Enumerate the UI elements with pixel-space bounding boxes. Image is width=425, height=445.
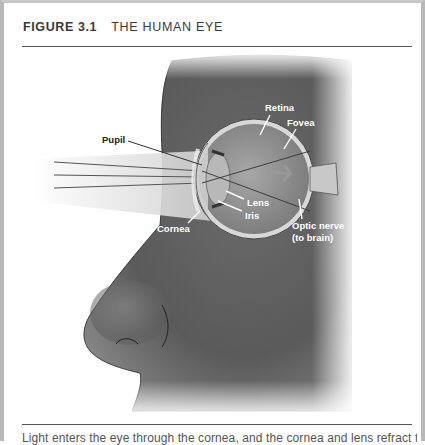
label-retina: Retina xyxy=(265,102,295,113)
caption-divider xyxy=(22,424,412,425)
lens-shape xyxy=(206,153,230,205)
figure-title: FIGURE 3.1 THE HUMAN EYE xyxy=(23,20,223,34)
label-pupil: Pupil xyxy=(102,134,125,145)
nose-highlight xyxy=(90,281,170,345)
label-lens: Lens xyxy=(247,197,269,208)
label-fovea: Fovea xyxy=(287,117,315,128)
label-iris: Iris xyxy=(245,210,259,221)
eye-illustration: Pupil Retina Fovea Lens Iris Cornea Opti… xyxy=(12,51,417,419)
figure-name: THE HUMAN EYE xyxy=(111,20,223,34)
title-divider xyxy=(22,46,412,47)
optic-nerve xyxy=(310,163,338,195)
figure-caption: Light enters the eye through the cornea,… xyxy=(22,431,417,445)
label-optic-nerve: Optic nerve xyxy=(292,220,344,231)
figure-number: FIGURE 3.1 xyxy=(23,20,97,34)
label-optic-nerve-sub: (to brain) xyxy=(292,232,333,243)
label-cornea: Cornea xyxy=(157,223,190,234)
